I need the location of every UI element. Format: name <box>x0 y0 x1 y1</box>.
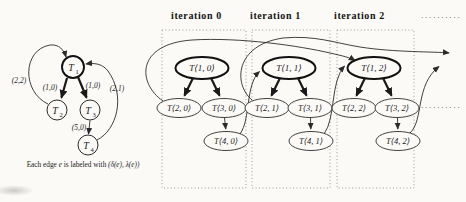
node-T4-2-label: T⟨4, 2⟩ <box>386 136 410 146</box>
node-T3-0-label: T⟨3, 0⟩ <box>212 103 236 113</box>
edge-T1-1-to-T2-1 <box>272 78 281 96</box>
edge-label-1-0-left: (1,0) <box>43 83 58 92</box>
continuation-dots-mid: .......... <box>421 100 462 110</box>
edge-T3-0-to-T4-0 <box>225 118 226 129</box>
node-T3-subscript: 3 <box>93 111 96 118</box>
scan-artifact <box>0 185 34 196</box>
iteration-2-header: iteration 2 <box>334 10 385 21</box>
edge-T1-2-to-T2-2 <box>357 78 366 96</box>
node-T1-0-label: T⟨1, 0⟩ <box>189 63 215 73</box>
node-T2-2-label: T⟨2, 2⟩ <box>342 103 366 113</box>
edge-T1-0-to-T3-0 <box>211 78 220 96</box>
node-T1-2-label: T⟨1, 2⟩ <box>361 63 387 73</box>
node-T1-subscript: 1 <box>76 68 79 75</box>
node-T1-1-label: T⟨1, 1⟩ <box>276 63 302 73</box>
node-T4-1-label: T⟨4, 1⟩ <box>299 136 323 146</box>
caption-middle: is labeled with <box>64 160 107 169</box>
caption-formula: (δ(e), λ(e)) <box>108 160 139 169</box>
node-T2-1-label: T⟨2, 1⟩ <box>255 103 279 113</box>
edge-T1-0-to-T2-0 <box>185 78 194 96</box>
iteration-0-header: iteration 0 <box>171 10 222 21</box>
edge-T1-1-to-T3-1 <box>298 78 307 96</box>
dependence-graph-figure: T 1 T 2 T 3 T 4 (2,2) (1,0) (1,0) (2,1) … <box>0 0 466 202</box>
iteration-1-header: iteration 1 <box>250 10 301 21</box>
edge-T2-to-T1 <box>29 45 66 104</box>
continuation-dots-top: .......... <box>421 10 462 20</box>
edge-label-2-2: (2,2) <box>12 76 27 85</box>
edge-label-1-0-right: (1,0) <box>86 81 101 90</box>
node-T3-1-label: T⟨3, 1⟩ <box>298 103 322 113</box>
edge-T1-2-to-T3-2 <box>383 78 392 96</box>
edge-label-5-0: (5,0) <box>72 123 87 132</box>
edge-T1-to-T2 <box>62 78 68 98</box>
node-T4-0-label: T⟨4, 0⟩ <box>214 136 238 146</box>
caption: Each edge e is labeled with (δ(e), λ(e)) <box>14 161 152 170</box>
node-T2-0-label: T⟨2, 0⟩ <box>167 103 191 113</box>
caption-prefix: Each edge <box>27 160 57 169</box>
edge-label-2-1: (2,1) <box>110 84 125 93</box>
figure-canvas: T 1 T 2 T 3 T 4 (2,2) (1,0) (1,0) (2,1) … <box>0 0 466 202</box>
caption-edge-variable: e <box>59 160 62 169</box>
node-T2-subscript: 2 <box>60 111 63 118</box>
edge-T3-to-T4 <box>89 121 91 135</box>
node-T3-2-label: T⟨3, 2⟩ <box>385 103 409 113</box>
